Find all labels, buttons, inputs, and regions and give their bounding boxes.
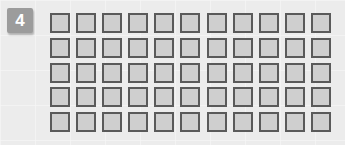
grid-square[interactable] [102,13,122,33]
grid-square[interactable] [180,87,200,107]
grid-square[interactable] [102,112,122,132]
grid-square[interactable] [50,13,70,33]
grid-square[interactable] [207,38,227,58]
number-badge: 4 [7,8,33,33]
grid-square[interactable] [259,38,279,58]
grid-square[interactable] [76,13,96,33]
grid-square[interactable] [102,38,122,58]
grid-square[interactable] [311,112,331,132]
grid-square[interactable] [285,63,305,83]
grid-square[interactable] [102,63,122,83]
grid-square[interactable] [50,87,70,107]
grid-square[interactable] [50,38,70,58]
grid-square[interactable] [259,13,279,33]
grid-square[interactable] [233,112,253,132]
grid-square[interactable] [102,87,122,107]
grid-square[interactable] [154,63,174,83]
grid-square[interactable] [311,38,331,58]
grid-square[interactable] [154,13,174,33]
grid-square[interactable] [180,38,200,58]
grid-square[interactable] [128,38,148,58]
grid-square[interactable] [180,13,200,33]
grid-square[interactable] [180,112,200,132]
grid-square[interactable] [76,87,96,107]
grid-square[interactable] [285,87,305,107]
square-grid [50,13,331,132]
grid-square[interactable] [259,87,279,107]
grid-square[interactable] [233,38,253,58]
grid-square[interactable] [259,63,279,83]
grid-square[interactable] [128,63,148,83]
grid-square[interactable] [259,112,279,132]
grid-square[interactable] [50,63,70,83]
grid-square[interactable] [233,13,253,33]
grid-square[interactable] [76,63,96,83]
grid-square[interactable] [128,13,148,33]
grid-square[interactable] [154,87,174,107]
grid-square[interactable] [128,112,148,132]
grid-square[interactable] [50,112,70,132]
grid-square[interactable] [311,87,331,107]
grid-square[interactable] [207,13,227,33]
grid-square[interactable] [76,38,96,58]
grid-square[interactable] [207,87,227,107]
grid-square[interactable] [285,38,305,58]
grid-square[interactable] [285,13,305,33]
grid-square[interactable] [207,112,227,132]
grid-square[interactable] [180,63,200,83]
grid-square[interactable] [128,87,148,107]
badge-number: 4 [15,11,24,31]
grid-square[interactable] [154,38,174,58]
grid-square[interactable] [207,63,227,83]
grid-square[interactable] [154,112,174,132]
grid-square[interactable] [285,112,305,132]
grid-square[interactable] [311,63,331,83]
grid-square[interactable] [76,112,96,132]
grid-square[interactable] [311,13,331,33]
grid-square[interactable] [233,87,253,107]
grid-square[interactable] [233,63,253,83]
